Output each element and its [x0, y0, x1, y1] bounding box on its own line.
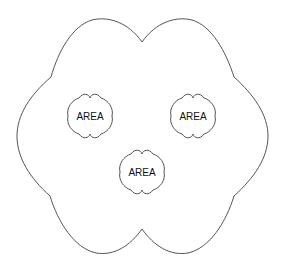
area-label: AREA [76, 111, 104, 122]
area-node-3[interactable]: AREA [120, 150, 165, 194]
diagram-canvas: AREA AREA AREA [0, 0, 288, 268]
area-node-2[interactable]: AREA [171, 94, 216, 138]
outer-region-outline [17, 19, 268, 254]
area-label: AREA [179, 111, 207, 122]
area-label: AREA [128, 167, 156, 178]
area-node-1[interactable]: AREA [68, 94, 113, 138]
